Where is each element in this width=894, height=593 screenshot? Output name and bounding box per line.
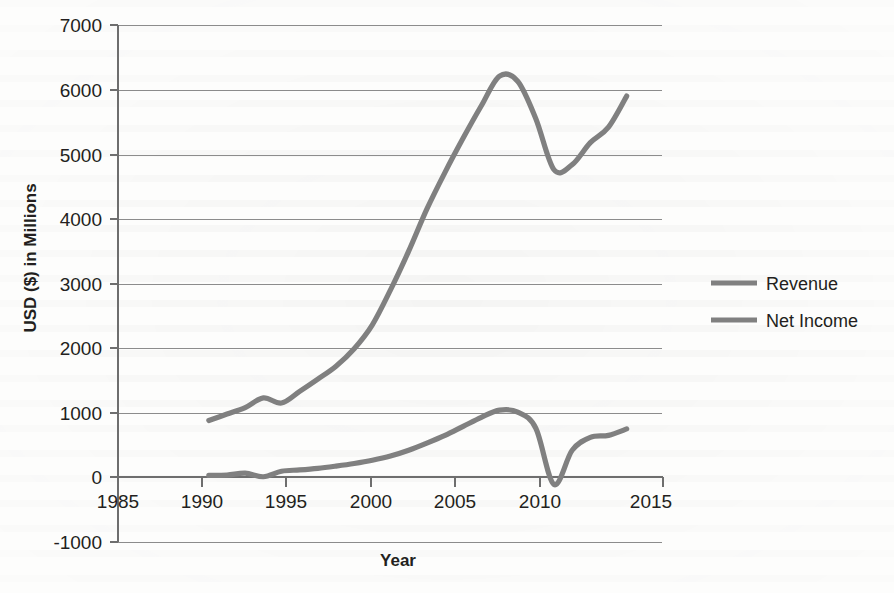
y-tick-label-0: 0: [91, 467, 102, 488]
y-tick-label-6000: 6000: [60, 80, 102, 101]
x-tick-label-2005: 2005: [434, 491, 476, 512]
series-group: [209, 74, 627, 485]
x-tick-label-2015: 2015: [630, 491, 672, 512]
y-axis-ticks: [110, 25, 118, 542]
x-axis-tick-labels: 1985 1990 1995 2000 2005 2010 2015: [97, 491, 672, 512]
x-axis-title: Year: [380, 551, 416, 570]
x-axis-ticks: [118, 477, 663, 487]
x-tick-label-1995: 1995: [265, 491, 307, 512]
y-tick-label-7000: 7000: [60, 15, 102, 36]
x-tick-label-1990: 1990: [181, 491, 223, 512]
y-axis-tick-labels: 7000 6000 5000 4000 3000 2000 1000 0 -10…: [53, 15, 102, 553]
gridlines: [118, 25, 662, 542]
series-line-revenue: [209, 74, 627, 421]
y-tick-label-1000: 1000: [60, 403, 102, 424]
y-tick-label-3000: 3000: [60, 274, 102, 295]
legend-label-net-income: Net Income: [766, 311, 858, 331]
x-tick-label-1985: 1985: [97, 491, 139, 512]
y-tick-label-2000: 2000: [60, 338, 102, 359]
y-axis-title: USD ($) in Millions: [21, 183, 40, 332]
y-tick-label-minus1000: -1000: [53, 532, 102, 553]
series-line-net-income: [209, 410, 627, 485]
x-tick-label-2010: 2010: [519, 491, 561, 512]
line-chart: 7000 6000 5000 4000 3000 2000 1000 0 -10…: [0, 0, 894, 593]
x-tick-label-2000: 2000: [350, 491, 392, 512]
legend-label-revenue: Revenue: [766, 274, 838, 294]
y-tick-label-4000: 4000: [60, 209, 102, 230]
chart-figure: 7000 6000 5000 4000 3000 2000 1000 0 -10…: [0, 0, 894, 593]
chart-legend: Revenue Net Income: [711, 274, 858, 331]
y-tick-label-5000: 5000: [60, 145, 102, 166]
